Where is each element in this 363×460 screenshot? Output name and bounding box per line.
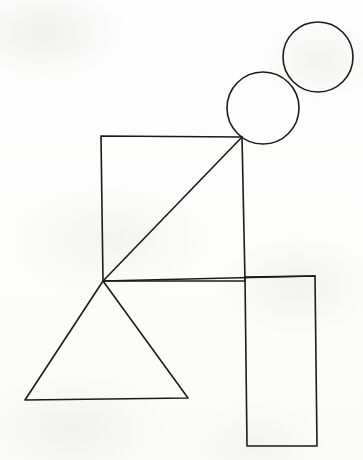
circle-lower-left-shape bbox=[227, 72, 299, 144]
line-drawing bbox=[0, 0, 363, 460]
diagonal-brace-line bbox=[103, 137, 242, 281]
triangle-legs-shape bbox=[25, 281, 188, 400]
circle-upper-right-shape bbox=[283, 22, 353, 92]
drawing-canvas bbox=[0, 0, 363, 460]
rectangle-tall-shape bbox=[245, 276, 317, 446]
